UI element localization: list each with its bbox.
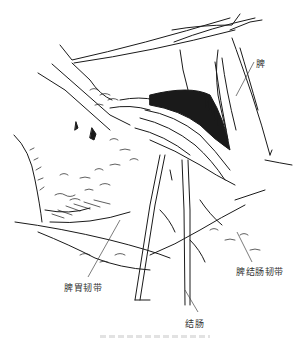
figure-caption-faint [100,335,210,338]
retractor-left [38,63,130,130]
clamp-instrument [135,155,190,305]
dark-patches [75,122,96,140]
label-colon: 结肠 [185,317,204,330]
colon-region [150,190,265,262]
surgical-illustration [0,0,297,342]
leader-line-splenocolic [237,232,252,262]
leader-line-gastrosplenic [88,220,120,277]
label-gastrosplenic-ligament: 脾胃韧带 [64,281,102,294]
stomach-outline [14,135,170,270]
label-splenocolic-ligament: 脾结肠韧带 [236,265,284,278]
leader-line-colon [185,290,198,312]
label-spleen: 脾 [256,57,266,70]
retractor-upper [60,14,240,63]
spleen-shape [110,90,235,185]
leader-line-spleen [236,62,254,96]
